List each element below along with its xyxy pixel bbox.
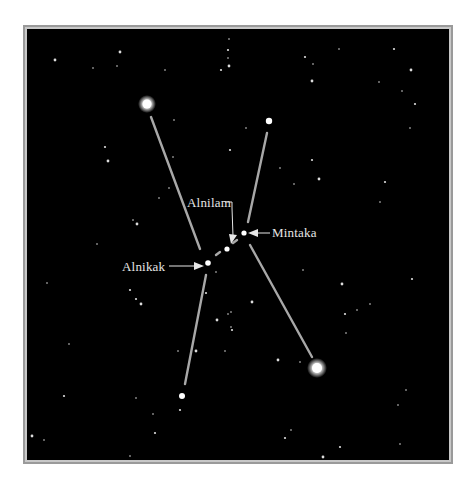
label-alnikak: Alnikak <box>122 260 165 274</box>
star <box>409 127 411 129</box>
constellation-line <box>185 275 206 384</box>
star <box>136 223 139 226</box>
star <box>135 298 137 300</box>
label-alnilam: Alnilam <box>187 196 231 210</box>
star-chart-frame: Alnilam Mintaka Alnikak <box>23 25 453 464</box>
star <box>152 413 154 415</box>
star <box>96 243 98 245</box>
star <box>158 197 160 199</box>
star <box>341 283 344 286</box>
star <box>129 455 131 457</box>
star <box>179 409 181 411</box>
star <box>411 278 413 280</box>
star <box>154 432 156 434</box>
star <box>164 69 166 71</box>
star <box>92 67 94 69</box>
star-bellatrix <box>266 118 272 124</box>
star-betelgeuse <box>143 100 152 109</box>
star <box>43 439 45 441</box>
star <box>132 219 134 221</box>
star <box>322 456 325 459</box>
star <box>304 56 306 58</box>
star <box>228 65 231 68</box>
star <box>356 309 358 311</box>
star <box>399 443 401 445</box>
star <box>116 65 118 67</box>
star <box>369 303 371 305</box>
star <box>379 201 381 203</box>
star <box>63 395 65 397</box>
star <box>414 103 416 105</box>
star <box>344 313 346 315</box>
star <box>129 289 131 291</box>
star <box>119 51 122 54</box>
orion-constellation-chart <box>25 27 455 466</box>
star <box>177 350 179 352</box>
star <box>284 437 286 439</box>
star <box>31 435 34 438</box>
background-stars <box>31 38 417 458</box>
alnikak-arrowhead-icon <box>194 262 204 270</box>
star <box>251 301 254 304</box>
constellation-line <box>151 117 200 249</box>
star <box>168 187 170 189</box>
star <box>227 49 229 51</box>
star <box>104 146 106 148</box>
star <box>54 59 57 62</box>
star <box>339 446 341 448</box>
star <box>345 332 347 334</box>
star <box>230 311 232 313</box>
star <box>140 303 143 306</box>
constellation-lines <box>151 117 312 384</box>
star <box>230 326 232 328</box>
star-saiph <box>179 393 185 399</box>
major-stars <box>138 95 327 399</box>
star <box>312 63 314 65</box>
star <box>311 80 314 83</box>
star <box>195 350 198 353</box>
star <box>277 359 280 362</box>
star <box>299 361 301 363</box>
star-rigel <box>312 363 322 373</box>
star <box>229 149 231 151</box>
star <box>227 57 229 59</box>
star <box>216 319 219 322</box>
star-alnilam <box>224 246 229 251</box>
star <box>245 127 247 129</box>
star <box>318 178 321 181</box>
star <box>378 81 380 83</box>
star <box>293 183 295 185</box>
star <box>68 343 70 345</box>
star-alnitak <box>205 260 211 266</box>
star-mintaka <box>241 230 246 235</box>
star <box>231 329 233 331</box>
star <box>393 48 395 50</box>
constellation-line <box>233 240 237 243</box>
star <box>302 269 304 271</box>
star <box>224 350 226 352</box>
mintaka-arrowhead-icon <box>248 229 258 237</box>
star <box>384 181 386 183</box>
star <box>205 292 207 294</box>
constellation-line <box>216 252 220 255</box>
star <box>107 160 110 163</box>
star <box>135 397 137 399</box>
star <box>405 389 407 391</box>
star <box>227 313 229 315</box>
star <box>311 159 313 161</box>
star <box>220 69 222 71</box>
label-arrows <box>169 202 270 270</box>
star <box>279 167 281 169</box>
star <box>46 282 48 284</box>
star <box>397 404 399 406</box>
star <box>410 69 413 72</box>
constellation-line <box>250 245 312 357</box>
star <box>173 119 175 121</box>
star <box>228 38 230 40</box>
star <box>401 90 403 92</box>
label-mintaka: Mintaka <box>272 226 317 240</box>
constellation-line <box>248 133 267 222</box>
star <box>338 48 340 50</box>
star <box>172 156 174 158</box>
star <box>290 429 292 431</box>
